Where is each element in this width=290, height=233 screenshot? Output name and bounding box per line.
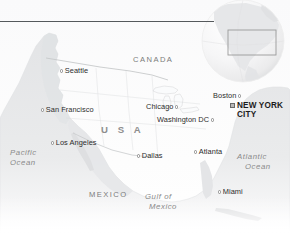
- locator-map-figure: CANADA U S A MEXICO Pacific Ocean Atlant…: [0, 0, 290, 233]
- map-canvas: [0, 0, 290, 233]
- top-divider-rule: [0, 21, 214, 22]
- bottom-fade-overlay: [0, 196, 290, 233]
